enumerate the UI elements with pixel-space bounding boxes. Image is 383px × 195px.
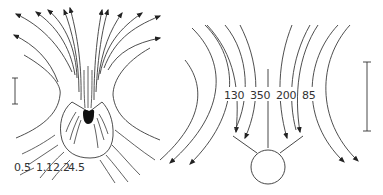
field-line xyxy=(240,25,256,138)
field-line xyxy=(66,112,76,132)
label-left-0: 0.5 xyxy=(14,161,31,174)
scale-bar-right xyxy=(363,62,371,131)
field-line xyxy=(160,60,198,160)
left-panel: 0.5 1.1 2.2 4.5 xyxy=(12,8,160,183)
field-line xyxy=(16,55,60,138)
field-line xyxy=(207,25,237,132)
label-right-3: 85 xyxy=(302,89,316,102)
field-line xyxy=(16,14,72,72)
field-line xyxy=(91,70,92,108)
field-line xyxy=(113,48,160,140)
field-line xyxy=(115,130,155,160)
label-right-0: 130 xyxy=(224,89,244,102)
strut xyxy=(280,136,303,153)
field-line xyxy=(292,25,310,130)
diagram-canvas: 0.5 1.1 2.2 4.5 xyxy=(0,0,383,195)
field-line xyxy=(108,38,160,70)
field-line xyxy=(94,10,102,100)
sphere xyxy=(251,150,285,184)
right-panel: 130 350 200 85 xyxy=(160,25,371,184)
field-line xyxy=(70,8,81,100)
field-line xyxy=(74,120,81,144)
field-line xyxy=(64,10,79,92)
field-line xyxy=(280,25,292,138)
label-left-1: 1.1 xyxy=(36,161,53,174)
field-line xyxy=(99,114,108,134)
field-line xyxy=(112,145,140,175)
field-line xyxy=(14,35,58,82)
field-line xyxy=(297,25,318,132)
strut xyxy=(233,136,257,153)
label-left-3: 4.5 xyxy=(68,161,85,174)
organism-head xyxy=(83,110,94,124)
field-line xyxy=(326,25,358,161)
field-line xyxy=(22,135,55,154)
field-line xyxy=(225,25,245,130)
label-right-1: 350 xyxy=(250,89,270,102)
label-right-2: 200 xyxy=(276,89,296,102)
field-line xyxy=(94,124,98,148)
field-line xyxy=(84,70,85,108)
scale-bar-left xyxy=(12,78,18,104)
